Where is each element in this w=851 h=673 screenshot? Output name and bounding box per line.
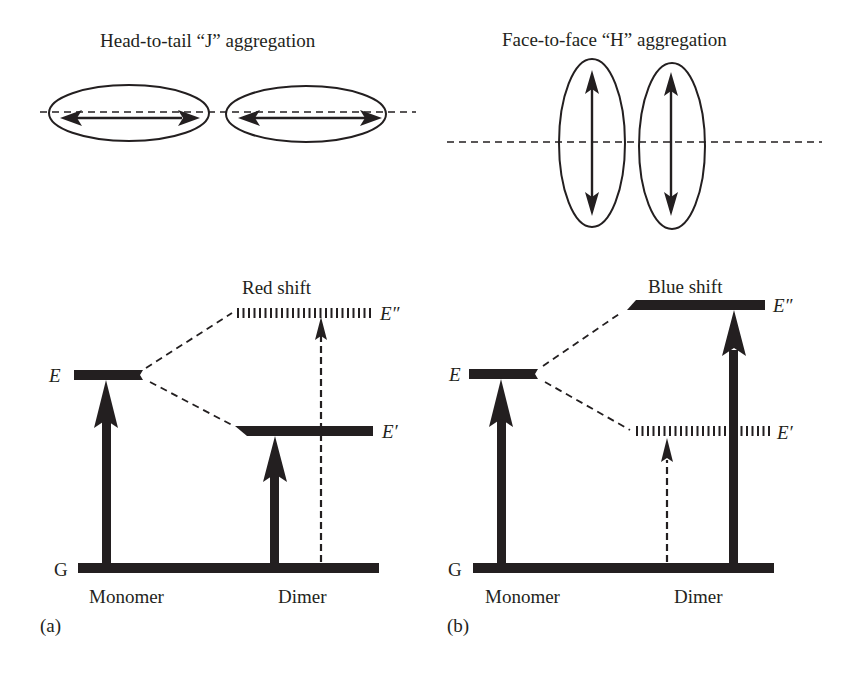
b-monomer-transition-arrow-icon	[489, 379, 513, 565]
panel-b-energy-diagram	[469, 300, 774, 573]
h-aggregate-dipoles	[447, 59, 822, 229]
h-dipole-arrow-2-icon	[664, 72, 678, 216]
a-label-e-prime: E′	[382, 422, 398, 441]
b-dimer-forbidden-transition-arrow-icon	[661, 438, 673, 562]
b-dimer-label: Dimer	[674, 587, 723, 606]
a-label-g: G	[54, 560, 68, 579]
b-label-g: G	[448, 560, 462, 579]
panel-b-title: Face-to-face “H” aggregation	[502, 30, 727, 49]
a-dimer-allowed-transition-arrow-icon	[263, 436, 287, 565]
b-monomer-label: Monomer	[485, 587, 560, 606]
a-level-e-prime	[235, 426, 373, 436]
panel-b-shift-label: Blue shift	[648, 277, 722, 296]
b-split-line-down	[545, 382, 630, 430]
a-label-e: E	[49, 366, 61, 385]
panel-a-energy-diagram	[74, 313, 379, 573]
exciton-diagram	[0, 0, 851, 673]
panel-a-label: (a)	[40, 616, 61, 635]
a-level-g	[78, 563, 379, 573]
b-label-e: E	[449, 365, 461, 384]
a-monomer-transition-arrow-icon	[94, 380, 118, 565]
a-split-line-down	[150, 382, 232, 425]
h-dipole-arrow-1-icon	[585, 70, 599, 216]
a-split-line-up	[146, 313, 232, 368]
b-label-e-double-prime: E″	[773, 296, 793, 315]
panel-a-shift-label: Red shift	[242, 278, 311, 297]
b-level-e-double-prime	[627, 300, 765, 310]
a-dimer-label: Dimer	[278, 587, 327, 606]
a-monomer-label: Monomer	[89, 587, 164, 606]
b-level-g	[473, 563, 774, 573]
a-label-e-double-prime: E″	[380, 304, 400, 323]
b-level-e	[469, 369, 538, 379]
j-aggregate-dipoles	[40, 85, 416, 142]
panel-b-label: (b)	[447, 616, 469, 635]
b-split-line-up	[543, 312, 622, 366]
panel-a-title: Head-to-tail “J” aggregation	[100, 31, 315, 50]
a-level-e	[74, 370, 143, 380]
a-dimer-forbidden-transition-arrow-icon	[315, 317, 327, 562]
b-label-e-prime: E′	[777, 423, 793, 442]
b-dimer-allowed-transition-arrow-icon	[722, 310, 746, 565]
